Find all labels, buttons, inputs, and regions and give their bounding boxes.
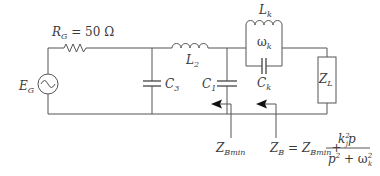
zb-formula: ZB = ZBmin+ k2jp p2 + ω2k bbox=[269, 132, 373, 168]
capacitor-c3 bbox=[143, 48, 161, 114]
capacitor-c1-label: C1 bbox=[202, 77, 216, 93]
svg-text:p2 + ω2k: p2 + ω2k bbox=[328, 152, 373, 168]
source-label: EG bbox=[18, 79, 35, 95]
zbmin-label: ZBmin bbox=[215, 141, 246, 157]
tank-capacitor-label: Ck bbox=[257, 76, 271, 92]
inductor-l2-label: L2 bbox=[185, 53, 199, 69]
tank-frequency-label: ωk bbox=[257, 35, 272, 51]
svg-text:k2jp: k2jp bbox=[338, 132, 356, 148]
resistor bbox=[48, 44, 172, 52]
voltage-source bbox=[38, 48, 58, 114]
tank-inductor-label: Lk bbox=[258, 3, 272, 19]
circuit-diagram: EG RG = 50 Ω C3 L2 C1 bbox=[0, 0, 380, 176]
capacitor-c3-label: C3 bbox=[165, 77, 179, 93]
resistor-label: RG = 50 Ω bbox=[51, 25, 114, 41]
arrow-zbmin bbox=[211, 100, 231, 139]
arrow-zb bbox=[256, 100, 276, 139]
inductor-l2 bbox=[172, 44, 246, 49]
load-label: ZL bbox=[318, 72, 333, 88]
